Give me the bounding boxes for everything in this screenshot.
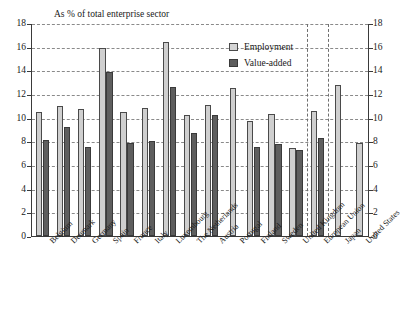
bar-value-added-belgium: [43, 140, 49, 236]
x-axis-label-finland: Finland: [259, 239, 265, 245]
y-tick-label-left-4: 4: [4, 185, 26, 195]
group-separator-after-united-kingdom: [307, 24, 308, 236]
y-tick-label-left-12: 12: [4, 90, 26, 100]
x-axis-label-belgium: Belgium: [48, 239, 54, 245]
y-tick-mark-left-0: [27, 237, 31, 238]
y-tick-mark-left-14: [27, 71, 31, 72]
x-axis-label-united-kingdom: United Kingdom: [301, 239, 307, 245]
y-tick-mark-right-0: [369, 237, 373, 238]
group-separator-after-european-union: [328, 24, 329, 236]
y-tick-mark-left-2: [27, 213, 31, 214]
bar-employment-spain: [99, 48, 105, 236]
bar-employment-france: [120, 112, 126, 236]
y-tick-label-left-14: 14: [4, 66, 26, 76]
y-tick-label-right-16: 16: [373, 43, 395, 53]
legend-swatch-value-added-icon: [229, 59, 238, 67]
bar-value-added-luxembourg: [170, 87, 176, 236]
y-tick-mark-left-12: [27, 95, 31, 96]
y-tick-label-left-6: 6: [4, 161, 26, 171]
bar-employment-denmark: [57, 106, 63, 236]
x-axis-label-the-netherlands: The Netherlands: [195, 239, 201, 245]
y-tick-label-right-8: 8: [373, 137, 395, 147]
bar-employment-european-union: [311, 111, 317, 236]
y-tick-mark-left-18: [27, 24, 31, 25]
x-axis-label-france: France: [132, 239, 138, 245]
x-axis-category-labels: BelgiumDenmarkGermanySpainFranceItalyLux…: [31, 239, 369, 316]
legend-swatch-employment-icon: [229, 43, 238, 51]
y-tick-mark-right-4: [369, 190, 373, 191]
bar-employment-the-netherlands: [184, 115, 190, 236]
bar-series-layer: [32, 24, 368, 236]
y-tick-mark-right-16: [369, 48, 373, 49]
y-tick-label-right-4: 4: [373, 185, 395, 195]
legend-item-employment: Employment: [229, 41, 293, 53]
x-axis-label-denmark: Denmark: [69, 239, 75, 245]
y-tick-label-right-10: 10: [373, 114, 395, 124]
bar-employment-sweden: [268, 114, 274, 236]
y-tick-mark-left-10: [27, 119, 31, 120]
bar-value-added-france: [127, 143, 133, 236]
y-tick-mark-right-6: [369, 166, 373, 167]
y-tick-mark-right-14: [369, 71, 373, 72]
x-axis-label-sweden: Sweden: [280, 239, 286, 245]
chart-container: As % of total enterprise sector BelgiumD…: [0, 0, 416, 316]
legend-item-value-added: Value-added: [229, 57, 293, 69]
y-tick-mark-right-12: [369, 95, 373, 96]
y-tick-label-right-6: 6: [373, 161, 395, 171]
bar-value-added-spain: [106, 72, 112, 236]
x-axis-label-germany: Germany: [90, 239, 96, 245]
x-axis-label-luxembourg: Luxembourg: [174, 239, 180, 245]
y-tick-mark-left-6: [27, 166, 31, 167]
y-tick-label-left-10: 10: [4, 114, 26, 124]
bar-employment-finland: [247, 121, 253, 236]
y-tick-label-left-16: 16: [4, 43, 26, 53]
y-tick-label-right-14: 14: [373, 66, 395, 76]
x-axis-label-spain: Spain: [111, 239, 117, 245]
plot-area: [31, 24, 369, 237]
y-tick-label-right-2: 2: [373, 208, 395, 218]
y-tick-label-left-2: 2: [4, 208, 26, 218]
legend-label-employment: Employment: [244, 42, 293, 52]
y-tick-mark-right-2: [369, 213, 373, 214]
bar-employment-italy: [142, 108, 148, 236]
y-tick-mark-right-18: [369, 24, 373, 25]
y-tick-label-left-0: 0: [4, 232, 26, 242]
y-tick-mark-right-10: [369, 119, 373, 120]
x-axis-label-italy: Italy: [153, 239, 159, 245]
y-tick-label-right-0: 0: [373, 232, 395, 242]
y-tick-mark-right-8: [369, 142, 373, 143]
x-axis-label-european-union: European Union: [322, 239, 328, 245]
legend-label-value-added: Value-added: [244, 58, 291, 68]
y-tick-mark-left-4: [27, 190, 31, 191]
y-tick-label-right-18: 18: [373, 19, 395, 29]
x-axis-label-portugal: Portugal: [238, 239, 244, 245]
y-tick-label-left-18: 18: [4, 19, 26, 29]
x-axis-label-japan: Japan: [343, 239, 349, 245]
x-axis-label-austria: Austria: [217, 239, 223, 245]
bar-employment-germany: [78, 109, 84, 236]
chart-legend: Employment Value-added: [229, 41, 293, 73]
y-tick-mark-left-16: [27, 48, 31, 49]
y-tick-label-left-8: 8: [4, 137, 26, 147]
x-axis-label-united-states: United States: [364, 239, 370, 245]
y-tick-mark-left-8: [27, 142, 31, 143]
bar-employment-luxembourg: [163, 42, 169, 236]
bar-value-added-italy: [149, 141, 155, 236]
y-tick-label-right-12: 12: [373, 90, 395, 100]
bar-employment-united-states: [356, 143, 362, 236]
bar-employment-belgium: [36, 112, 42, 236]
chart-title: As % of total enterprise sector: [54, 9, 169, 20]
